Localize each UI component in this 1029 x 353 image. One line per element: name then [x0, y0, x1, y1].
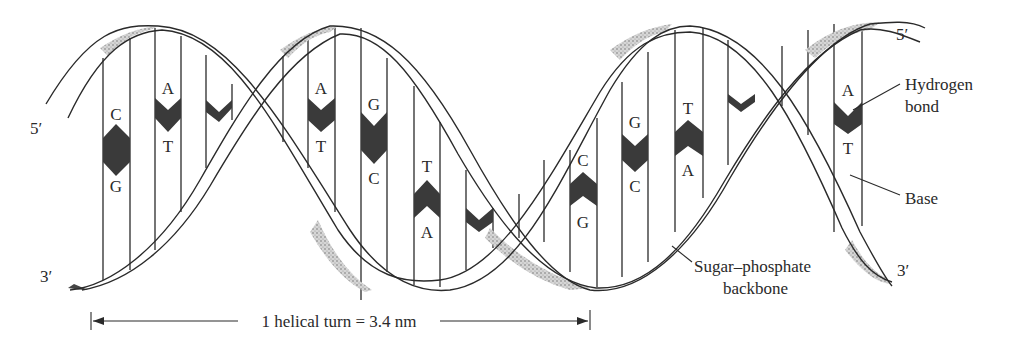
helical-turn-measure: 1 helical turn = 3.4 nm	[91, 310, 590, 331]
base-label: T	[316, 137, 327, 156]
base-label: A	[842, 81, 855, 100]
end-label-3prime-left: 3′	[40, 267, 52, 286]
end-label-5prime-right: 5′	[896, 25, 908, 44]
base-label: C	[110, 105, 121, 124]
base-label: A	[162, 79, 175, 98]
callout-hydrogen-bond: Hydrogen bond	[853, 75, 973, 116]
base-label: G	[110, 177, 122, 196]
base-label: A	[421, 223, 434, 242]
base-label: T	[683, 99, 694, 118]
dna-helix-diagram: C G A T A T G C T A C G G C T A A T 5′ 3…	[0, 0, 1029, 353]
base-label: G	[368, 95, 380, 114]
end-label-3prime-right: 3′	[897, 261, 909, 280]
callout-label: Sugar–phosphate	[694, 257, 811, 276]
callout-base: Base	[850, 175, 938, 208]
callout-label: bond	[905, 97, 940, 116]
hydrogen-bonds	[103, 94, 862, 232]
backbone-shading	[68, 22, 890, 292]
base-label: A	[315, 79, 328, 98]
helical-turn-label: 1 helical turn = 3.4 nm	[261, 312, 416, 331]
sugar-phosphate-backbone	[46, 22, 925, 290]
base-label: T	[843, 139, 854, 158]
base-label: G	[629, 113, 641, 132]
end-label-5prime-left: 5′	[30, 119, 42, 138]
base-label: T	[422, 157, 433, 176]
base-label: C	[629, 177, 640, 196]
base-label: G	[577, 213, 589, 232]
base-label: C	[368, 169, 379, 188]
base-label: T	[163, 137, 174, 156]
callout-label: Base	[905, 189, 938, 208]
callout-backbone: Sugar–phosphate backbone	[672, 246, 811, 298]
base-label: C	[577, 151, 588, 170]
callout-label: backbone	[723, 279, 788, 298]
base-label: A	[682, 161, 695, 180]
callout-label: Hydrogen	[905, 75, 973, 94]
